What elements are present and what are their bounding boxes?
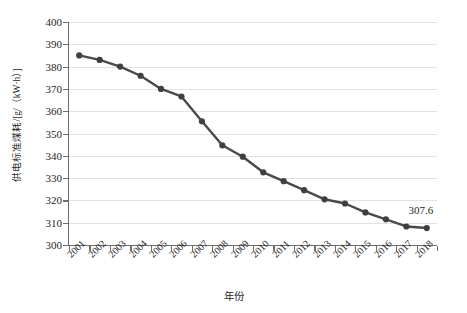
data-point-marker xyxy=(424,225,430,231)
data-point-marker xyxy=(97,57,103,63)
data-point-marker xyxy=(321,196,327,202)
data-point-marker xyxy=(199,118,205,124)
data-point-marker xyxy=(260,169,266,175)
data-point-marker xyxy=(117,64,123,70)
data-point-marker xyxy=(137,73,143,79)
data-point-marker xyxy=(240,154,246,160)
data-point-marker xyxy=(301,187,307,193)
line-chart: 供电标准煤耗/[g/（kW·h）] 3003103203303403503603… xyxy=(0,0,467,313)
data-point-marker xyxy=(342,200,348,206)
data-point-marker xyxy=(403,223,409,229)
series-line xyxy=(79,55,427,228)
x-axis-title: 年份 xyxy=(0,288,467,303)
data-point-marker xyxy=(76,52,82,58)
data-series-layer xyxy=(0,0,467,313)
data-point-marker xyxy=(362,209,368,215)
data-point-marker xyxy=(219,142,225,148)
data-point-marker xyxy=(383,216,389,222)
data-point-marker xyxy=(281,178,287,184)
data-point-marker xyxy=(178,93,184,99)
data-point-marker xyxy=(158,86,164,92)
